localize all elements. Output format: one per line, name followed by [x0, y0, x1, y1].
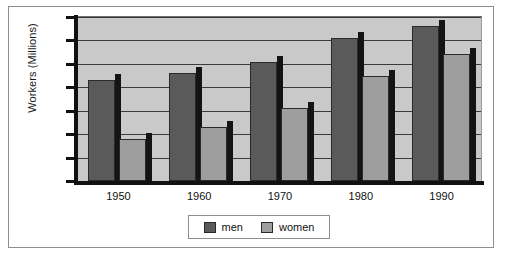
x-tick-label-1950: 1950 [88, 190, 148, 202]
bar-top-shadow [115, 74, 121, 80]
bar-top-shadow [308, 102, 314, 108]
bar-face [362, 76, 389, 181]
bar-women-1960 [200, 127, 227, 181]
chart-figure: Workers (Millions) 706050403020100 19501… [0, 0, 509, 256]
y-tick-mark [66, 110, 75, 113]
bar-men-1980 [331, 38, 358, 181]
y-tick-mark [66, 63, 75, 66]
bar-top-shadow [196, 67, 202, 73]
y-tick-mark [66, 16, 75, 19]
x-tick-label-1960: 1960 [169, 190, 229, 202]
bar-top-shadow [277, 56, 283, 62]
legend-item-men[interactable]: men [204, 222, 243, 233]
bar-women-1950 [119, 139, 146, 181]
x-tick-label-1990: 1990 [412, 190, 472, 202]
y-tick-mark [66, 180, 75, 183]
bar-top-shadow [358, 32, 364, 38]
bar-top-shadow [470, 48, 476, 54]
x-axis-spine [74, 181, 484, 185]
legend-item-women[interactable]: women [261, 222, 314, 233]
bar-men-1970 [250, 62, 277, 181]
bar-men-1990 [412, 26, 439, 181]
legend-swatch-men [204, 222, 216, 233]
gridline [78, 17, 482, 18]
y-tick-mark [66, 133, 75, 136]
legend-swatch-women [261, 222, 273, 233]
x-tick-label-1980: 1980 [331, 190, 391, 202]
bar-side-shadow [227, 127, 233, 181]
plot-right-edge [481, 17, 482, 181]
y-tick-mark [66, 39, 75, 42]
bar-women-1980 [362, 76, 389, 181]
bar-top-shadow [389, 70, 395, 76]
bar-women-1990 [443, 54, 470, 181]
bar-face [119, 139, 146, 181]
bar-face [443, 54, 470, 181]
bar-top-shadow [227, 121, 233, 127]
y-tick-mark [66, 86, 75, 89]
legend-label-men: men [222, 222, 243, 233]
y-tick-mark [66, 157, 75, 160]
bar-face [331, 38, 358, 181]
y-axis-title: Workers (Millions) [26, 0, 38, 138]
bar-men-1960 [169, 73, 196, 181]
x-tick-label-1970: 1970 [250, 190, 310, 202]
bar-face [250, 62, 277, 181]
bar-side-shadow [308, 108, 314, 181]
bar-side-shadow [146, 139, 152, 181]
bar-face [412, 26, 439, 181]
bar-men-1950 [88, 80, 115, 181]
bar-face [169, 73, 196, 181]
bar-women-1970 [281, 108, 308, 181]
bar-face [200, 127, 227, 181]
bar-side-shadow [470, 54, 476, 181]
bar-side-shadow [389, 76, 395, 181]
bar-top-shadow [439, 20, 445, 26]
bar-face [88, 80, 115, 181]
bar-face [281, 108, 308, 181]
bar-top-shadow [146, 133, 152, 139]
legend-label-women: women [279, 222, 314, 233]
chart-legend: menwomen [188, 215, 330, 239]
